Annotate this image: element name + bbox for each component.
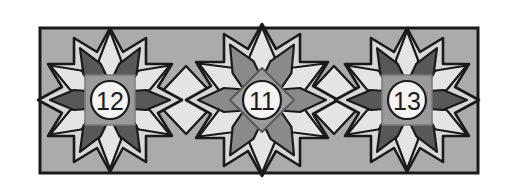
figure-root: 12 11 13	[0, 0, 509, 192]
geometric-rosette-illustration: 12 11 13	[0, 0, 509, 192]
rosette-12-label: 12	[96, 87, 124, 115]
rosette-11-label: 11	[249, 87, 275, 115]
rosette-13-label: 13	[393, 87, 421, 115]
